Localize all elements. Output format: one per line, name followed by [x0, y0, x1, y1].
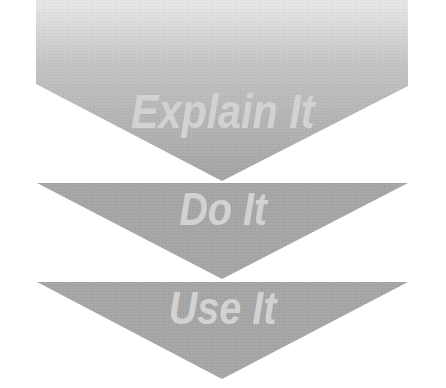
step-2-label: Do It — [0, 184, 446, 234]
step-3-label: Use It — [0, 283, 446, 333]
step-1-label: Explain It — [0, 86, 446, 138]
process-diagram: Explain It Do It Use It — [0, 0, 446, 388]
